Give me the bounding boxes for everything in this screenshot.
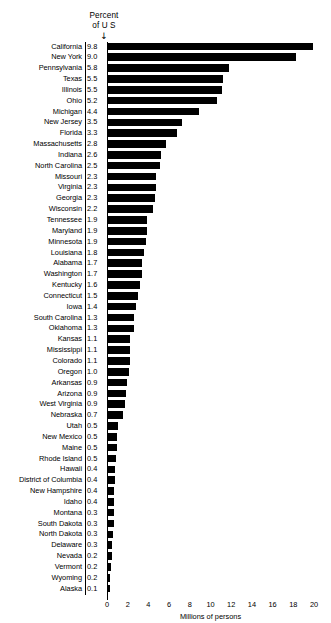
state-label: Michigan: [0, 107, 82, 116]
bar-track: [107, 313, 314, 324]
table-row: Rhode Island0.5: [0, 454, 331, 465]
percent-value: 1.7: [87, 258, 103, 267]
table-row: Oklahoma1.3: [0, 324, 331, 335]
state-label: Wisconsin: [0, 204, 82, 213]
state-label: Missouri: [0, 172, 82, 181]
down-arrow-icon: ↓: [78, 32, 130, 40]
state-label: Utah: [0, 421, 82, 430]
bar-track: [107, 172, 314, 183]
bar: [107, 86, 222, 94]
bar-track: [107, 302, 314, 313]
axis-tick-label: 12: [227, 600, 235, 609]
bar: [107, 444, 117, 452]
bar: [107, 335, 130, 343]
percent-column-header: Percent of U S ↓: [78, 11, 130, 40]
bar: [107, 455, 116, 463]
bar: [107, 531, 113, 539]
table-row: New Jersey3.5: [0, 118, 331, 129]
bar-track: [107, 75, 314, 86]
state-label: South Carolina: [0, 313, 82, 322]
percent-value: 1.9: [87, 226, 103, 235]
bar: [107, 270, 142, 278]
bar: [107, 151, 161, 159]
percent-value: 0.3: [87, 540, 103, 549]
bar-track: [107, 411, 314, 422]
percent-value: 0.1: [87, 584, 103, 593]
state-label: Louisiana: [0, 248, 82, 257]
table-row: Montana0.3: [0, 508, 331, 519]
table-row: Michigan4.4: [0, 107, 331, 118]
bar: [107, 75, 223, 83]
table-row: Wyoming0.2: [0, 573, 331, 584]
bar-track: [107, 563, 314, 574]
bar: [107, 129, 177, 137]
bar-track: [107, 465, 314, 476]
table-row: Arkansas0.9: [0, 378, 331, 389]
bar: [107, 509, 114, 517]
bar: [107, 400, 125, 408]
percent-value: 0.9: [87, 399, 103, 408]
table-row: Arizona0.9: [0, 389, 331, 400]
percent-value: 2.5: [87, 161, 103, 170]
percent-value: 1.1: [87, 345, 103, 354]
table-row: California9.8: [0, 42, 331, 53]
percent-value: 5.8: [87, 63, 103, 72]
state-label: Illinois: [0, 85, 82, 94]
percent-value: 0.3: [87, 508, 103, 517]
state-label: Montana: [0, 508, 82, 517]
percent-value: 2.6: [87, 150, 103, 159]
percent-value: 0.5: [87, 421, 103, 430]
bar: [107, 541, 112, 549]
bar: [107, 346, 130, 354]
axis-tick-label: 10: [206, 600, 214, 609]
header-line-1: Percent: [78, 11, 130, 21]
bar-track: [107, 53, 314, 64]
table-row: Connecticut1.5: [0, 291, 331, 302]
state-label: Mississippi: [0, 345, 82, 354]
bar: [107, 205, 153, 213]
state-label: Ohio: [0, 96, 82, 105]
table-row: North Carolina2.5: [0, 161, 331, 172]
state-label: Texas: [0, 74, 82, 83]
state-label: Arkansas: [0, 378, 82, 387]
table-row: District of Columbia0.4: [0, 476, 331, 487]
percent-value: 2.2: [87, 204, 103, 213]
state-label: Iowa: [0, 302, 82, 311]
bar: [107, 43, 313, 51]
percent-value: 9.8: [87, 42, 103, 51]
bar: [107, 259, 142, 267]
table-row: Delaware0.3: [0, 541, 331, 552]
bar: [107, 585, 110, 593]
table-row: Texas5.5: [0, 75, 331, 86]
axis-tick-label: 16: [268, 600, 276, 609]
percent-value: 2.8: [87, 139, 103, 148]
table-row: Indiana2.6: [0, 150, 331, 161]
bar: [107, 108, 199, 116]
axis-tick-label: 14: [248, 600, 256, 609]
state-label: Connecticut: [0, 291, 82, 300]
percent-value: 2.3: [87, 172, 103, 181]
percent-value: 0.5: [87, 443, 103, 452]
bar: [107, 520, 114, 528]
bar: [107, 368, 129, 376]
bar: [107, 216, 147, 224]
bar-track: [107, 150, 314, 161]
state-label: District of Columbia: [0, 475, 82, 484]
percent-value: 1.9: [87, 237, 103, 246]
bar-track: [107, 42, 314, 53]
table-row: New Hampshire0.4: [0, 487, 331, 498]
bar-track: [107, 64, 314, 75]
table-row: Louisiana1.8: [0, 248, 331, 259]
table-row: Hawaii0.4: [0, 465, 331, 476]
bar-track: [107, 422, 314, 433]
bar: [107, 162, 160, 170]
bar-track: [107, 96, 314, 107]
percent-value: 0.4: [87, 464, 103, 473]
bar-rows: California9.8New York9.0Pennsylvania5.8T…: [0, 42, 331, 595]
state-label: Kansas: [0, 334, 82, 343]
bar: [107, 476, 115, 484]
bar-track: [107, 118, 314, 129]
state-label: New York: [0, 52, 82, 61]
percent-value: 5.5: [87, 85, 103, 94]
state-label: Washington: [0, 269, 82, 278]
